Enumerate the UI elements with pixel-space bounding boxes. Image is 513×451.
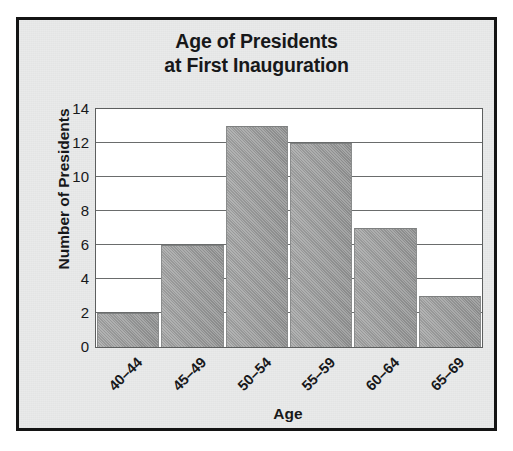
- y-tick-label-2: 2: [55, 304, 89, 321]
- bar-slot: [418, 109, 482, 347]
- y-axis-tick-labels: 14 12 10 8 6 4 2 0: [55, 20, 89, 434]
- y-tick-label-10: 10: [55, 168, 89, 185]
- chart-title-line-1: Age of Presidents: [19, 29, 494, 53]
- y-tick-label-6: 6: [55, 236, 89, 253]
- y-tick-label-8: 8: [55, 202, 89, 219]
- bar[interactable]: [226, 126, 288, 347]
- bar-slot: [353, 109, 417, 347]
- y-tick-label-14: 14: [55, 100, 89, 117]
- bar[interactable]: [419, 296, 481, 347]
- bar[interactable]: [354, 228, 416, 347]
- y-tick-label-0: 0: [55, 338, 89, 355]
- chart-title: Age of Presidents at First Inauguration: [19, 29, 494, 77]
- bar-slot: [160, 109, 224, 347]
- x-tick-label: 60–64: [363, 354, 403, 394]
- x-tick-slot: 50–54: [224, 346, 288, 406]
- x-tick-slot: 45–49: [159, 346, 223, 406]
- y-tick-label-12: 12: [55, 134, 89, 151]
- x-tick-label: 65–69: [427, 354, 467, 394]
- x-tick-slot: 60–64: [352, 346, 416, 406]
- bar[interactable]: [161, 245, 223, 347]
- bars-layer: [96, 109, 482, 347]
- x-tick-label: 45–49: [170, 354, 210, 394]
- x-tick-slot: 55–59: [288, 346, 352, 406]
- bar-slot: [96, 109, 160, 347]
- x-tick-slot: 65–69: [417, 346, 481, 406]
- x-tick-label: 50–54: [234, 354, 274, 394]
- x-axis-title: Age: [95, 405, 481, 423]
- bar[interactable]: [97, 313, 159, 347]
- bar[interactable]: [290, 143, 352, 347]
- chart-figure: Age of Presidents at First Inauguration …: [0, 0, 513, 451]
- x-axis-tick-labels: 40–44 45–49 50–54 55–59 60–64 65–69: [95, 346, 481, 406]
- plot-area: [95, 108, 483, 348]
- y-tick-label-4: 4: [55, 270, 89, 287]
- x-tick-slot: 40–44: [95, 346, 159, 406]
- chart-title-line-2: at First Inauguration: [19, 53, 494, 77]
- x-tick-label: 55–59: [299, 354, 339, 394]
- bar-slot: [225, 109, 289, 347]
- x-tick-label: 40–44: [106, 354, 146, 394]
- chart-frame: Age of Presidents at First Inauguration …: [16, 17, 497, 431]
- bar-slot: [289, 109, 353, 347]
